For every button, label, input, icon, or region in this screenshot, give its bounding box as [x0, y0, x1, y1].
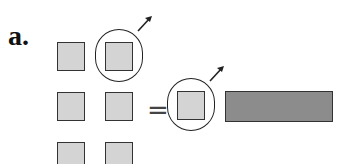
square-r2c2	[105, 92, 133, 121]
square-r3c1	[57, 142, 85, 164]
square-r1c2-circled	[105, 42, 133, 71]
arrow-icon	[136, 14, 156, 34]
square-right-circled	[177, 91, 205, 120]
dark-bar	[225, 91, 333, 122]
square-r1c1	[57, 42, 85, 71]
square-r2c1	[57, 92, 85, 121]
equals-sign: =	[147, 97, 169, 123]
arrow-icon-right	[208, 64, 228, 84]
square-r3c2	[105, 142, 133, 164]
figure-label: a.	[8, 22, 29, 50]
